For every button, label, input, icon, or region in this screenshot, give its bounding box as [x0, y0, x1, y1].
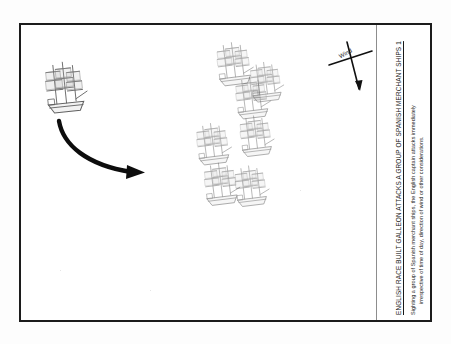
scan-speckle — [150, 290, 151, 291]
scan-speckle — [300, 190, 301, 191]
sailing-ship-icon — [234, 111, 278, 161]
caption-body-line-1: Sighting a group of Spanish merchant shi… — [410, 105, 416, 315]
scan-page-background: Wind ENGLISH RACE BUILT GALLEON ATTACKS … — [0, 0, 451, 344]
sailing-ship-icon — [229, 161, 273, 211]
wind-rose: Wind — [324, 33, 376, 95]
curved-attack-arrow-icon — [53, 117, 183, 187]
wind-arrow-icon — [324, 33, 376, 95]
english-galleon-ship — [38, 58, 91, 119]
drawing-area: Wind — [21, 25, 376, 320]
merchant-ship-5 — [234, 111, 278, 161]
merchant-ship-7 — [229, 161, 273, 211]
plate-frame: Wind ENGLISH RACE BUILT GALLEON ATTACKS … — [19, 23, 432, 322]
sailing-ship-icon — [244, 57, 287, 106]
merchant-ship-3 — [244, 57, 287, 106]
caption-body-line-2: irrespective of time of day, direction o… — [418, 136, 424, 304]
caption-title: ENGLISH RACE BUILT GALLEON ATTACKS A GRO… — [395, 41, 402, 315]
scan-speckle — [60, 270, 61, 271]
attack-arrow — [53, 117, 183, 187]
sailing-ship-icon — [38, 58, 91, 119]
caption-column: ENGLISH RACE BUILT GALLEON ATTACKS A GRO… — [377, 25, 430, 320]
